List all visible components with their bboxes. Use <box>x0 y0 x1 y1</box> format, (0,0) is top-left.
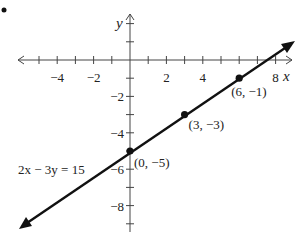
coordinate-graph: x y −4−2248 −2−4−6−8 (0, −5)(3, −3)(6, −… <box>0 0 298 232</box>
y-axis-label: y <box>114 15 123 31</box>
point-marker <box>181 111 188 118</box>
bullet-marker <box>2 8 7 13</box>
point-label: (6, −1) <box>231 84 267 99</box>
y-axis <box>126 14 134 232</box>
y-tick-labels: −2−4−6−8 <box>110 89 124 213</box>
x-tick-labels: −4−2248 <box>50 70 279 85</box>
x-tick-label: −2 <box>87 70 101 85</box>
point-label: (0, −5) <box>134 155 170 170</box>
x-axis <box>18 56 292 64</box>
x-axis-label: x <box>282 68 290 84</box>
line-arrow-up-right-icon <box>281 41 295 53</box>
equation-label: 2x − 3y = 15 <box>18 162 85 177</box>
y-tick-label: −8 <box>110 199 124 214</box>
line-arrow-down-left-icon <box>19 217 32 229</box>
x-tick-label: 2 <box>163 70 170 85</box>
point-label: (3, −3) <box>189 117 225 132</box>
x-tick-label: 4 <box>200 70 207 85</box>
y-tick-label: −2 <box>110 89 124 104</box>
plotted-points: (0, −5)(3, −3)(6, −1) <box>126 75 266 170</box>
x-tick-label: −4 <box>50 70 64 85</box>
x-tick-label: 8 <box>272 70 279 85</box>
y-tick-label: −4 <box>110 126 124 141</box>
point-marker <box>236 75 243 82</box>
point-marker <box>126 147 133 154</box>
